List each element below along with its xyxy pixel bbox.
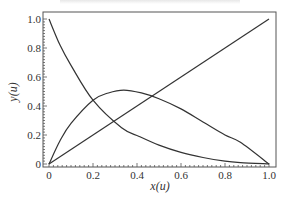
curves — [49, 19, 269, 164]
diagonal-line — [49, 19, 269, 164]
chart: 00.20.40.60.81.0 00.20.40.60.81.0 x(u) y… — [0, 0, 284, 200]
x-tick-label: 0.6 — [174, 169, 188, 181]
x-tick-label: 1.0 — [262, 169, 276, 181]
y-tick-label: 1.0 — [27, 13, 41, 25]
x-tick-label: 0.2 — [86, 169, 100, 181]
x-tick-label: 0.8 — [218, 169, 232, 181]
y-tick-label: 0.2 — [27, 129, 41, 141]
y-tick-label: 0.8 — [27, 42, 41, 54]
x-axis-label: x(u) — [149, 179, 169, 193]
y-tick-label: 0.4 — [27, 100, 41, 112]
x-tick-label: 0 — [46, 169, 52, 181]
y-tick-label: 0 — [36, 158, 42, 170]
x-tick-label: 0.4 — [130, 169, 144, 181]
hump-curve — [49, 90, 269, 164]
y-tick-label: 0.6 — [27, 71, 41, 83]
y-tick-labels: 00.20.40.60.81.0 — [27, 13, 41, 170]
y-axis-label: y(u) — [6, 82, 20, 102]
plot-frame — [43, 12, 276, 167]
